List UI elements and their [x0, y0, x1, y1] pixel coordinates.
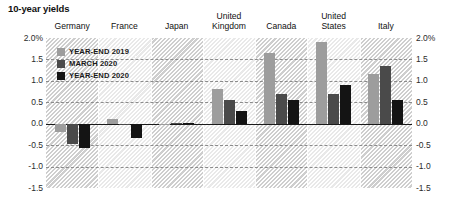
legend-label: MARCH 2020 [69, 59, 117, 68]
bar [264, 53, 275, 124]
legend-item: MARCH 2020 [57, 58, 129, 69]
legend-label: YEAR-END 2020 [69, 71, 129, 80]
category-label: United States [307, 12, 359, 31]
bar [340, 85, 351, 124]
category-separator [151, 38, 152, 188]
bar [328, 94, 339, 124]
bar [236, 111, 247, 124]
category-label: Canada [255, 22, 307, 32]
category-separator [360, 38, 361, 188]
legend-label: YEAR-END 2019 [69, 47, 129, 56]
bar [119, 124, 130, 125]
bar [55, 124, 66, 132]
category-label: Japan [151, 22, 203, 32]
y-axis-tick-label: 0.5 [3, 98, 43, 107]
y-axis-tick-label: 0.0 [3, 119, 43, 128]
zero-line [46, 124, 412, 125]
category-label: France [98, 22, 150, 32]
bar [212, 89, 223, 123]
y-axis-tick-label: -0.5 [416, 141, 456, 150]
bar [67, 124, 78, 145]
legend-swatch-icon [57, 48, 65, 56]
y-axis-tick-label: 1.0 [416, 76, 456, 85]
category-separator [203, 38, 204, 188]
bar [183, 123, 194, 124]
legend-item: YEAR-END 2020 [57, 70, 129, 81]
bar [107, 119, 118, 124]
category-separator [255, 38, 256, 188]
chart-title: 10-year yields [8, 3, 69, 14]
y-axis-tick-label: -1.5 [3, 184, 43, 193]
legend: YEAR-END 2019 MARCH 2020 YEAR-END 2020 [57, 46, 129, 82]
legend-swatch-icon [57, 72, 65, 80]
legend-swatch-icon [57, 60, 65, 68]
y-axis-tick-label: 1.0 [3, 76, 43, 85]
y-axis-tick-label: 0.0 [416, 119, 456, 128]
bar [368, 74, 379, 123]
legend-item: YEAR-END 2019 [57, 46, 129, 57]
bar [276, 94, 287, 124]
chart-container: 10-year yields 2.0%1.51.00.50.0-0.5-1.0-… [0, 0, 458, 210]
y-axis-tick-label: -1.0 [3, 162, 43, 171]
y-axis-tick-label: -0.5 [3, 141, 43, 150]
y-axis-tick-label: -1.0 [416, 162, 456, 171]
bar [316, 42, 327, 123]
bar [224, 100, 235, 124]
category-label: Germany [46, 22, 98, 32]
y-axis-tick-label: 2.0% [3, 34, 43, 43]
y-axis-tick-label: 0.5 [416, 98, 456, 107]
bar [79, 124, 90, 148]
category-separator [307, 38, 308, 188]
bar [380, 66, 391, 124]
y-axis-tick-label: 1.5 [416, 55, 456, 64]
y-axis-tick-label: -1.5 [416, 184, 456, 193]
gridline [46, 167, 412, 168]
y-axis-tick-label: 2.0% [416, 34, 456, 43]
category-label: United Kingdom [203, 12, 255, 31]
bar [131, 124, 142, 139]
bar [392, 100, 403, 124]
category-label: Italy [360, 22, 412, 32]
y-axis-tick-label: 1.5 [3, 55, 43, 64]
gridline [46, 145, 412, 146]
bar [171, 123, 182, 124]
bar [288, 100, 299, 124]
bar [159, 124, 170, 125]
